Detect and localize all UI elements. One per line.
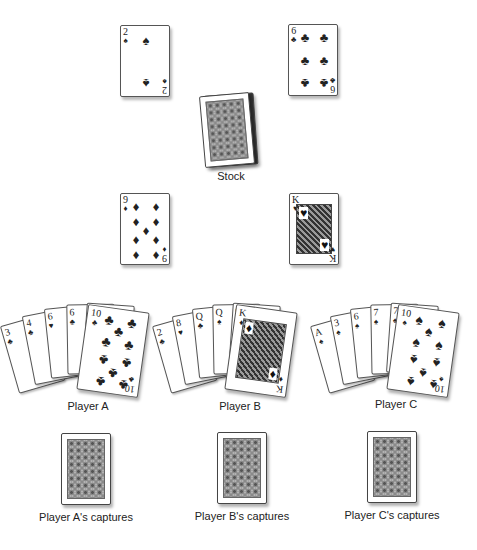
card-back-pattern	[67, 439, 105, 499]
card-index: 6♠	[353, 311, 360, 331]
spade-icon: ♠	[412, 335, 421, 349]
card-index-bottom: 9♦	[162, 245, 167, 263]
player-c-label: Player C	[356, 398, 436, 410]
card-index: 10♠	[399, 308, 412, 329]
card-index-bottom: 10♠	[434, 373, 447, 394]
spade-icon: ♠	[415, 313, 424, 327]
spade-icon: ♠	[143, 34, 150, 47]
card-index: 7♠	[373, 307, 378, 327]
card-index-bottom: 6♣	[330, 76, 335, 94]
card-index: 3♠	[333, 318, 342, 339]
card-index: 2♠	[123, 27, 128, 45]
card-index: 10♣	[89, 308, 102, 329]
club-icon: ♣	[301, 31, 310, 44]
card-index: 6♣	[69, 307, 75, 327]
club-icon: ♣	[107, 366, 118, 380]
club-icon: ♣	[301, 54, 310, 67]
diamond-icon: ♦	[133, 200, 140, 213]
card-index-bottom: 2♠	[162, 77, 167, 95]
spade-icon: ♠	[406, 375, 415, 389]
card-index: Q♣	[195, 311, 204, 332]
player-a-hand: 3♣ 4♣ 6♥ 6♣ 7♣ 10♣ ♣ ♣ ♣ ♣ ♣ ♣ ♣ ♣ ♣ ♣ 1…	[22, 300, 152, 410]
spade-icon: ♠	[432, 356, 441, 370]
card-back-pattern	[223, 438, 261, 498]
spade-icon: ♠	[424, 325, 433, 339]
club-icon: ♣	[104, 313, 115, 327]
diamond-icon: ♦	[143, 224, 150, 237]
player-a-captures-pile[interactable]	[61, 433, 111, 505]
card-index: 8♥	[175, 318, 184, 339]
card-index: A♠	[314, 326, 326, 347]
diamond-icon: ♦	[244, 322, 254, 335]
hand-card-top[interactable]: 10♣ ♣ ♣ ♣ ♣ ♣ ♣ ♣ ♣ ♣ ♣ 10♣	[76, 304, 149, 398]
table-card-9-diamonds[interactable]: 9♦ ♦ ♦ ♦ ♦ ♦ ♦ ♦ ♦ ♦ 9♦	[120, 193, 170, 265]
player-a-captures-label: Player A's captures	[26, 511, 146, 523]
heart-icon: ♥	[299, 207, 308, 219]
card-index: Q♠	[215, 307, 223, 327]
card-back-pattern	[373, 437, 411, 497]
club-icon: ♣	[124, 338, 135, 352]
spade-icon: ♠	[409, 353, 418, 367]
table-card-king-hearts[interactable]: K♥ ♥ ♥ K♥	[289, 193, 339, 265]
table-card-6-clubs[interactable]: 6♣ ♣ ♣ ♣ ♣ ♣ ♣ 6♣	[288, 24, 338, 96]
player-b-captures-label: Player B's captures	[182, 510, 302, 522]
player-b-hand: 2♣ 8♥ Q♣ Q♠ Q♠ K♦ ♦ ♦ K♦	[172, 300, 302, 410]
player-a-label: Player A	[48, 400, 128, 412]
diamond-icon: ♦	[133, 215, 140, 228]
spade-icon: ♠	[418, 366, 427, 380]
player-b-captures-pile[interactable]	[217, 432, 267, 504]
hand-card-top[interactable]: 10♠ ♠ ♠ ♠ ♠ ♠ ♠ ♠ ♠ ♠ ♠ 10♠	[386, 304, 459, 398]
club-icon: ♣	[113, 325, 124, 339]
player-c-hand: A♠ 3♠ 6♠ 7♠ 7♠ 10♠ ♠ ♠ ♠ ♠ ♠ ♠ ♠ ♠ ♠ ♠ 1…	[330, 300, 460, 410]
spade-icon: ♠	[437, 316, 446, 330]
club-icon: ♣	[301, 77, 310, 90]
club-icon: ♣	[121, 356, 132, 370]
spade-icon: ♠	[143, 77, 150, 90]
table-card-2-spades[interactable]: 2♠ ♠ ♠ 2♠	[120, 25, 170, 97]
club-icon: ♣	[320, 31, 329, 44]
card-index: 3♣	[4, 327, 15, 348]
stock-label: Stock	[206, 170, 256, 182]
club-icon: ♣	[95, 374, 106, 388]
diamond-icon: ♦	[153, 248, 160, 261]
diamond-icon: ♦	[133, 233, 140, 246]
card-index-bottom: 10♣	[124, 373, 137, 394]
card-back-pattern	[205, 98, 248, 161]
stock-pile[interactable]	[200, 92, 260, 168]
card-index: 2♣	[156, 327, 167, 348]
card-index: 6♥	[47, 311, 54, 331]
club-icon: ♣	[101, 335, 112, 349]
stock-card-back	[199, 92, 255, 168]
king-face-art: ♥ ♥	[296, 204, 332, 254]
club-icon: ♣	[98, 353, 109, 367]
club-icon: ♣	[320, 54, 329, 67]
spade-icon: ♠	[434, 338, 443, 352]
diamond-icon: ♦	[133, 248, 140, 261]
card-index: 4♣	[25, 318, 34, 339]
hand-card-top[interactable]: K♦ ♦ ♦ K♦	[224, 304, 297, 398]
card-index: 6♣	[291, 26, 296, 44]
card-index-bottom: K♦	[275, 374, 285, 395]
diamond-icon: ♦	[153, 233, 160, 246]
heart-icon: ♥	[320, 239, 329, 251]
player-c-captures-pile[interactable]	[367, 431, 417, 503]
club-icon: ♣	[127, 316, 138, 330]
diamond-icon: ♦	[153, 215, 160, 228]
card-index-bottom: K♥	[329, 245, 336, 263]
player-b-label: Player B	[200, 400, 280, 412]
diamond-icon: ♦	[153, 200, 160, 213]
club-icon: ♣	[320, 77, 329, 90]
player-c-captures-label: Player C's captures	[332, 509, 452, 521]
card-index: 9♦	[123, 195, 128, 213]
